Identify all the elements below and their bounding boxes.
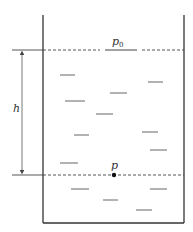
depth-label: h <box>13 102 20 115</box>
point-p-marker <box>112 173 116 177</box>
surface-pressure-label: p0 <box>112 35 124 49</box>
point-pressure-label: p <box>111 159 118 172</box>
liquid-marks <box>60 75 167 210</box>
hydrostatic-diagram: p0 p h <box>0 0 193 232</box>
depth-level <box>12 173 184 177</box>
